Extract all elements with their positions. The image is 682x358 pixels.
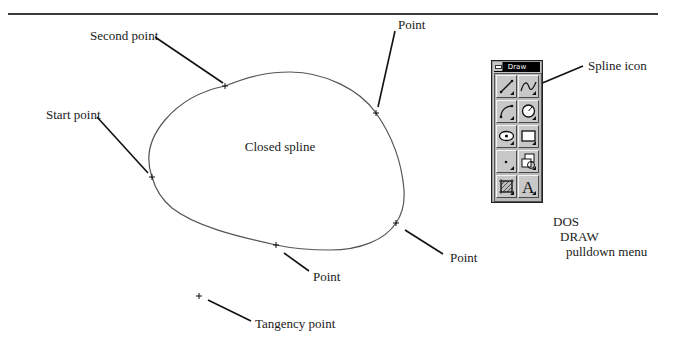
closed-spline-curve (149, 72, 404, 250)
toolbox-button-grid: A (494, 73, 542, 202)
spline-icon-label: Spline icon (588, 59, 647, 73)
flyout-indicator (510, 166, 514, 170)
flyout-indicator (510, 91, 514, 95)
flyout-indicator (532, 191, 536, 195)
polygon-tool-button[interactable] (518, 150, 539, 173)
tangency-point-label: Tangency point (255, 317, 335, 331)
point-bottom-right-label: Point (450, 251, 477, 265)
ellipse-tool-button[interactable] (496, 125, 517, 148)
flyout-indicator (532, 116, 536, 120)
flyout-indicator (510, 116, 514, 120)
line-tool-button[interactable] (496, 75, 517, 98)
point-markers (149, 83, 399, 299)
hatch-tool-button[interactable] (496, 175, 517, 198)
control-menu-icon[interactable] (494, 62, 503, 71)
point-bottom-label: Point (313, 270, 340, 284)
spline-tool-button[interactable] (518, 75, 539, 98)
draw-toolbox: Draw (491, 60, 543, 203)
second-point-label: Second point (90, 29, 158, 43)
flyout-indicator (532, 166, 536, 170)
flyout-indicator (532, 141, 536, 145)
circle-tool-button[interactable] (518, 100, 539, 123)
caption-line-2: DRAW (560, 230, 599, 244)
text-tool-button[interactable]: A (518, 175, 539, 198)
flyout-indicator (510, 141, 514, 145)
start-point-label: Start point (46, 108, 101, 122)
flyout-indicator (510, 191, 514, 195)
caption-line-3: pulldown menu (566, 245, 647, 259)
point-tool-button[interactable] (496, 150, 517, 173)
closed-spline-label: Closed spline (245, 140, 315, 154)
flyout-indicator (532, 91, 536, 95)
toolbox-title: Draw (508, 63, 526, 71)
spline-diagram (0, 0, 682, 358)
arc-tool-button[interactable] (496, 100, 517, 123)
rectangle-tool-button[interactable] (518, 125, 539, 148)
caption-line-1: DOS (553, 215, 579, 229)
point-top-right-label: Point (398, 18, 425, 32)
